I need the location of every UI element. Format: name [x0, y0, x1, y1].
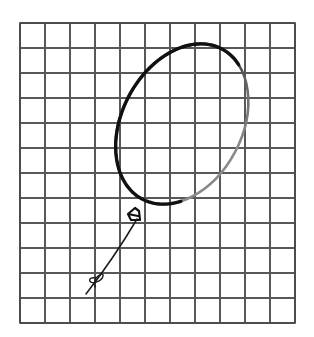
paper-background — [0, 0, 314, 337]
drawing-canvas: Hand-drawn balloon on graph paper — [0, 0, 314, 337]
balloon-illustration — [0, 0, 314, 337]
